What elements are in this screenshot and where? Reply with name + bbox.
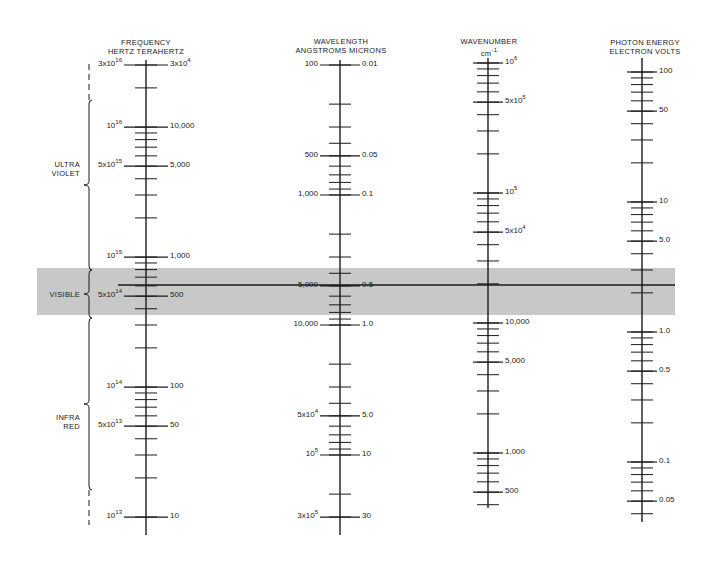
energy-label: 1.0 (659, 326, 670, 336)
frequency-thz-label: 100 (170, 381, 183, 391)
ir-brace (84, 318, 92, 490)
wavenumber-label: 5x104 (505, 226, 526, 236)
wavelength-angstrom-label: 5,000 (298, 280, 318, 290)
energy-label: 0.05 (659, 495, 675, 505)
uv-line1: ULTRA (40, 160, 80, 169)
frequency-thz-label: 10,000 (170, 121, 194, 131)
wavenumber-label: 1,000 (505, 447, 525, 457)
frequency-thz-label: 1,000 (170, 251, 190, 261)
ir-line1: INFRA (40, 413, 80, 422)
frequency-hz-label: 5x1013 (98, 420, 122, 430)
wavenumber-unit-exp: -1 (491, 47, 497, 53)
spectrum-nomogram (0, 0, 714, 563)
energy-units: ELECTRON VOLTS (609, 47, 680, 56)
energy-header: PHOTON ENERGY ELECTRON VOLTS (609, 38, 680, 56)
wavelength-header: WAVELENGTH ANGSTROMS MICRONS (296, 37, 387, 55)
frequency-hz-label: 1013 (106, 511, 122, 521)
wavenumber-label: 5x105 (505, 96, 526, 106)
energy-label: 5.0 (659, 235, 670, 245)
energy-label: 0.5 (659, 365, 670, 375)
wavelength-angstrom-label: 5x104 (297, 410, 318, 420)
frequency-hz-label: 5x1014 (98, 290, 122, 300)
frequency-hz-label: 1014 (106, 381, 122, 391)
frequency-units: HERTZ TERAHERTZ (108, 47, 184, 56)
frequency-thz-label: 10 (170, 511, 179, 521)
wavelength-angstrom-label: 105 (306, 449, 318, 459)
wavelength-micron-label: 5.0 (362, 410, 373, 420)
wavelength-title: WAVELENGTH (296, 37, 387, 46)
uv-line2: VIOLET (40, 169, 80, 178)
ir-line2: RED (40, 422, 80, 431)
wavelength-micron-label: 1.0 (362, 319, 373, 329)
energy-label: 0.1 (659, 456, 670, 466)
visible-band (37, 268, 675, 315)
wavelength-angstrom-label: 500 (305, 150, 318, 160)
wavelength-micron-label: 0.01 (362, 59, 378, 69)
energy-label: 100 (659, 66, 672, 76)
wavenumber-header: WAVENUMBER cm-1 (461, 37, 518, 58)
wavelength-micron-label: 0.05 (362, 150, 378, 160)
wavenumber-label: 106 (505, 57, 517, 67)
wavenumber-label: 500 (505, 486, 518, 496)
wavelength-angstrom-label: 1,000 (298, 189, 318, 199)
frequency-thz-label: 3x104 (170, 59, 191, 69)
wavelength-units: ANGSTROMS MICRONS (296, 46, 387, 55)
frequency-thz-label: 500 (170, 290, 183, 300)
wavelength-micron-label: 0.5 (362, 280, 373, 290)
wavenumber-label: 5,000 (505, 356, 525, 366)
frequency-title: FREQUENCY (108, 38, 184, 47)
wavenumber-label: 10,000 (505, 317, 529, 327)
region-label-visible: VISIBLE (34, 290, 80, 299)
uv-brace (84, 100, 92, 270)
wavelength-angstrom-label: 100 (305, 59, 318, 69)
wavelength-micron-label: 10 (362, 449, 371, 459)
frequency-hz-label: 3x1016 (98, 59, 122, 69)
energy-label: 50 (659, 105, 668, 115)
frequency-thz-label: 5,000 (170, 160, 190, 170)
wavelength-angstrom-label: 3x105 (297, 511, 318, 521)
region-label-ultraviolet: ULTRA VIOLET (40, 160, 80, 178)
wavenumber-title: WAVENUMBER (461, 37, 518, 46)
frequency-header: FREQUENCY HERTZ TERAHERTZ (108, 38, 184, 56)
wavelength-micron-label: 30 (362, 511, 371, 521)
frequency-hz-label: 1015 (106, 251, 122, 261)
wavelength-micron-label: 0.1 (362, 189, 373, 199)
wavenumber-label: 105 (505, 187, 517, 197)
energy-title: PHOTON ENERGY (609, 38, 680, 47)
wavenumber-unit-base: cm (481, 49, 492, 58)
frequency-hz-label: 1016 (106, 121, 122, 131)
wavelength-angstrom-label: 10,000 (294, 319, 318, 329)
energy-label: 10 (659, 196, 668, 206)
frequency-hz-label: 5x1015 (98, 160, 122, 170)
frequency-thz-label: 50 (170, 420, 179, 430)
wavenumber-units: cm-1 (461, 46, 518, 58)
region-label-infrared: INFRA RED (40, 413, 80, 431)
